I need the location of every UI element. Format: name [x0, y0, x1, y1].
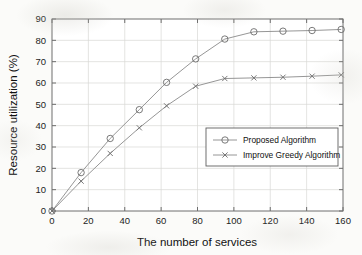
y-tick-label: 50: [35, 99, 46, 110]
y-tick-label: 40: [35, 120, 46, 131]
y-tick-label: 20: [35, 163, 46, 174]
line-chart: 0204060801001201401600102030405060708090…: [0, 0, 362, 255]
y-tick-label: 30: [35, 141, 46, 152]
x-tick-label: 20: [83, 215, 94, 226]
x-tick-label: 80: [192, 215, 203, 226]
chart-figure: 0204060801001201401600102030405060708090…: [0, 0, 362, 255]
legend-label: Improve Greedy Algorithm: [243, 150, 340, 160]
y-tick-label: 90: [35, 13, 46, 24]
x-axis-title: The number of services: [137, 236, 257, 248]
x-tick-label: 0: [49, 215, 54, 226]
y-axis-title: Resource utilization (%): [7, 54, 19, 176]
chart-legend[interactable]: Proposed AlgorithmImprove Greedy Algorit…: [206, 128, 340, 166]
x-tick-label: 100: [226, 215, 242, 226]
legend-box: [206, 128, 338, 166]
y-tick-label: 60: [35, 77, 46, 88]
x-tick-label: 140: [299, 215, 315, 226]
x-tick-label: 120: [262, 215, 278, 226]
y-tick-label: 70: [35, 56, 46, 67]
x-tick-label: 40: [119, 215, 130, 226]
x-tick-label: 160: [335, 215, 351, 226]
y-tick-label: 80: [35, 35, 46, 46]
x-tick-label: 60: [156, 215, 167, 226]
y-tick-label: 10: [35, 184, 46, 195]
y-tick-label: 0: [41, 205, 46, 216]
legend-label: Proposed Algorithm: [243, 135, 316, 145]
